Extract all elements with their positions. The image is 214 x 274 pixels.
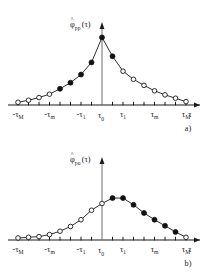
data-point-filled [79, 72, 84, 77]
x-tick-label: -τm [44, 245, 55, 256]
y-axis-label-hat: ˄ [71, 151, 74, 157]
x-tick-label: -τM [12, 110, 23, 121]
data-point-filled [110, 196, 115, 201]
x-tick-label: -τM [12, 245, 23, 256]
data-point-open [121, 69, 126, 74]
data-point-open [152, 89, 157, 94]
data-point-filled [152, 217, 157, 222]
x-tick-label: -τ1 [77, 245, 86, 256]
data-point-open [68, 224, 73, 229]
data-point-open [184, 235, 189, 240]
data-point-open [79, 217, 84, 222]
x-axis-label: τ [188, 245, 192, 254]
y-axis-label: φpp(τ) [70, 20, 91, 31]
data-point-filled [100, 35, 105, 40]
data-point-filled [142, 210, 147, 215]
x-tick-label: τm [151, 245, 159, 256]
data-point-filled [131, 202, 136, 207]
x-tick-label: τm [151, 110, 159, 121]
data-point-filled [89, 60, 94, 65]
data-point-open [131, 77, 136, 82]
data-point-open [100, 201, 105, 206]
data-point-open [47, 92, 52, 97]
data-point-filled [121, 196, 126, 201]
correlation-figure-svg: -τM-τm-τ1τ0τ1τmτMτφpp(τ)˄a) -τM-τm-τ1τ0τ… [0, 0, 214, 274]
figure-container: -τM-τm-τ1τ0τ1τmτMτφpp(τ)˄a) -τM-τm-τ1τ0τ… [0, 0, 214, 274]
data-point-open [16, 236, 21, 241]
data-point-open [47, 232, 52, 237]
y-axis-arrowhead [100, 22, 105, 29]
panel-tag: a) [185, 124, 192, 133]
x-tick-label: -τm [44, 110, 55, 121]
x-tick-label: τ1 [120, 110, 126, 121]
y-axis-arrowhead [100, 157, 105, 164]
data-point-open [37, 95, 42, 100]
data-point-open [163, 93, 168, 98]
y-axis-label: φpu(τ) [70, 155, 91, 166]
y-axis-label-hat: ˄ [71, 16, 74, 22]
x-tick-label: -τ1 [77, 110, 86, 121]
data-point-open [173, 96, 178, 101]
data-point-filled [68, 80, 73, 85]
data-point-open [142, 83, 147, 88]
data-point-filled [163, 223, 168, 228]
x-tick-label: τ1 [120, 245, 126, 256]
x-tick-label: τ0 [98, 111, 104, 122]
data-point-open [37, 234, 42, 239]
x-axis-label: τ [188, 110, 192, 119]
data-point-open [26, 98, 31, 103]
data-point-open [58, 229, 63, 234]
data-point-filled [58, 86, 63, 91]
data-point-open [16, 100, 21, 105]
panel-a: -τM-τm-τ1τ0τ1τmτMτφpp(τ)˄a) [8, 16, 200, 133]
x-axis-arrowhead [194, 237, 200, 242]
panel-b: -τM-τm-τ1τ0τ1τmτMτφpu(τ)˄b) [8, 151, 200, 268]
data-point-filled [110, 54, 115, 59]
data-point-open [184, 99, 189, 104]
data-point-filled [173, 229, 178, 234]
x-axis-arrowhead [194, 102, 200, 107]
x-tick-label: τ0 [98, 246, 104, 257]
panel-tag: b) [185, 259, 192, 268]
data-point-open [89, 208, 94, 213]
data-point-open [26, 235, 31, 240]
